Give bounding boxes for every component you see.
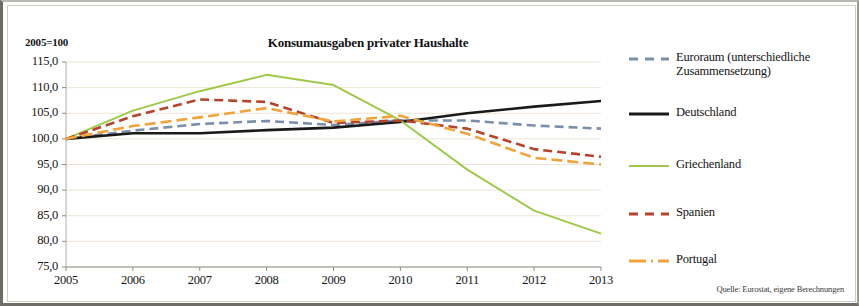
- x-tick-label: 2012: [504, 273, 564, 288]
- legend-item[interactable]: Portugal: [629, 252, 717, 267]
- y-tick-label: 115,0: [4, 54, 58, 69]
- legend-item[interactable]: Deutschland: [629, 105, 736, 120]
- plot-area: [3, 2, 859, 306]
- legend-label: Griechenland: [676, 157, 741, 171]
- legend-item[interactable]: Griechenland: [629, 157, 741, 172]
- y-tick-label: 105,0: [4, 105, 58, 120]
- line-chart-svg: [3, 2, 859, 306]
- chart-figure: 2005=100 Konsumausgaben privater Haushal…: [0, 0, 859, 306]
- series-line: [66, 108, 601, 164]
- legend-label: Euroraum (unterschiedliche Zusammensetzu…: [676, 50, 857, 78]
- legend-item[interactable]: Euroraum (unterschiedliche Zusammensetzu…: [629, 50, 857, 78]
- x-tick-label: 2005: [36, 273, 96, 288]
- x-tick-label: 2007: [170, 273, 230, 288]
- legend-label: Spanien: [676, 205, 715, 219]
- x-tick-label: 2009: [304, 273, 364, 288]
- y-tick-label: 90,0: [4, 182, 58, 197]
- legend-item[interactable]: Spanien: [629, 205, 715, 220]
- x-tick-label: 2013: [571, 273, 631, 288]
- x-tick-label: 2010: [370, 273, 430, 288]
- y-tick-label: 110,0: [4, 80, 58, 95]
- x-tick-label: 2011: [437, 273, 497, 288]
- legend-label: Portugal: [676, 252, 717, 266]
- legend-line-swatch-icon: [629, 53, 669, 65]
- legend-line-swatch-icon: [629, 108, 669, 120]
- y-tick-label: 75,0: [4, 259, 58, 274]
- y-tick-label: 100,0: [4, 131, 58, 146]
- legend-label: Deutschland: [676, 105, 736, 119]
- legend-line-swatch-icon: [629, 208, 669, 220]
- source-note: Quelle: Eurostat, eigene Berechnungen: [716, 284, 844, 294]
- y-tick-label: 95,0: [4, 157, 58, 172]
- y-tick-label: 80,0: [4, 233, 58, 248]
- x-tick-label: 2006: [103, 273, 163, 288]
- y-tick-label: 85,0: [4, 208, 58, 223]
- legend-line-swatch-icon: [629, 160, 669, 172]
- x-tick-label: 2008: [237, 273, 297, 288]
- legend-line-swatch-icon: [629, 255, 669, 267]
